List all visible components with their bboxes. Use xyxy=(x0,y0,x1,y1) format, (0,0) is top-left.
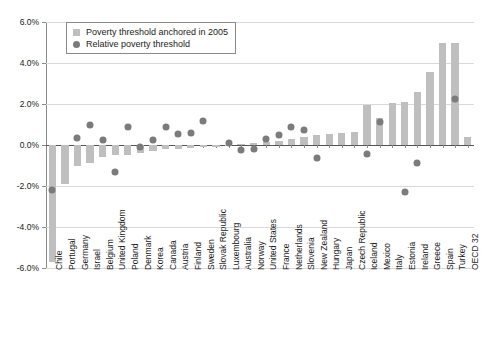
x-axis-tick xyxy=(405,145,406,148)
x-axis-tick-label: Netherlands xyxy=(295,224,304,270)
x-axis-tick-label: Denmark xyxy=(144,236,153,270)
x-axis-tick-label: New Zealand xyxy=(320,220,329,270)
data-point-marker xyxy=(263,135,270,142)
data-point-marker xyxy=(175,130,182,137)
bar xyxy=(175,145,182,149)
bar xyxy=(149,145,156,151)
bar xyxy=(401,102,408,145)
legend-item-anchored: Poverty threshold anchored in 2005 xyxy=(73,27,228,37)
bar xyxy=(439,43,446,146)
bar xyxy=(426,72,433,145)
x-axis-tick xyxy=(417,145,418,148)
bar xyxy=(263,142,270,145)
bar xyxy=(338,133,345,145)
x-axis-tick xyxy=(380,145,381,148)
x-axis-tick-label: Mexico xyxy=(383,243,392,270)
x-axis-tick-label: United States xyxy=(269,219,278,270)
series-layer xyxy=(46,22,474,268)
data-point-marker xyxy=(288,123,295,130)
y-axis-tick xyxy=(42,268,46,269)
bar xyxy=(326,134,333,145)
x-axis-tick-label: Slovak Republic xyxy=(219,209,228,270)
y-axis-tick-label: 6.0% xyxy=(20,18,39,27)
y-axis-tick-label: -6.0% xyxy=(17,264,39,273)
x-axis-tick-label: Slovenia xyxy=(307,237,316,270)
bar xyxy=(200,145,207,147)
x-axis-tick-label: Greece xyxy=(433,242,442,270)
bar xyxy=(300,137,307,145)
x-axis-tick-label: Germany xyxy=(81,235,90,270)
data-point-marker xyxy=(301,126,308,133)
data-point-marker xyxy=(112,168,119,175)
x-axis-tick-label: Israel xyxy=(93,249,102,270)
x-axis-tick-label: Belgium xyxy=(106,239,115,270)
dot-swatch-icon xyxy=(73,41,80,48)
bar xyxy=(414,92,421,145)
data-point-marker xyxy=(187,129,194,136)
x-axis-tick-label: Portugal xyxy=(68,238,77,270)
y-axis-tick-label: 2.0% xyxy=(20,100,39,109)
bar xyxy=(99,145,106,157)
y-axis-tick-label: 4.0% xyxy=(20,59,39,68)
x-axis-tick-label: Luxembourg xyxy=(232,223,241,270)
x-axis-labels: ChilePortugalGermanyIsraelBelgiumUnited … xyxy=(46,270,474,354)
x-axis-tick xyxy=(342,145,343,148)
x-axis-tick xyxy=(304,145,305,148)
x-axis-tick-label: Hungary xyxy=(332,238,341,270)
bar xyxy=(74,145,81,166)
x-axis-tick-label: Spain xyxy=(446,248,455,270)
poverty-threshold-chart: 6.0%4.0%2.0%0.0%-2.0%-4.0%-6.0% ChilePor… xyxy=(0,0,483,354)
x-axis-tick-label: Czech Republic xyxy=(358,210,367,270)
bar-swatch-icon xyxy=(73,29,80,36)
legend-label-relative: Relative poverty threshold xyxy=(86,39,190,49)
x-axis-tick xyxy=(279,145,280,148)
data-point-marker xyxy=(87,121,94,128)
x-axis-tick-label: Italy xyxy=(395,254,404,270)
data-point-marker xyxy=(364,151,371,158)
data-point-marker xyxy=(401,189,408,196)
x-axis-tick-label: Korea xyxy=(156,247,165,270)
data-point-marker xyxy=(162,123,169,130)
bar xyxy=(162,145,169,149)
bar xyxy=(275,141,282,145)
x-axis-tick-label: Austria xyxy=(181,244,190,270)
bar xyxy=(61,145,68,184)
bar xyxy=(351,132,358,145)
x-axis-tick-label: France xyxy=(282,244,291,270)
x-axis-tick-label: Ireland xyxy=(421,244,430,270)
x-axis-tick-label: Poland xyxy=(131,244,140,270)
data-point-marker xyxy=(99,136,106,143)
bar xyxy=(389,103,396,145)
data-point-marker xyxy=(376,119,383,126)
data-point-marker xyxy=(238,147,245,154)
x-axis-tick-label: Japan xyxy=(345,247,354,270)
bar xyxy=(363,105,370,145)
x-axis-tick xyxy=(430,145,431,148)
x-axis-tick-label: Sweden xyxy=(207,239,216,270)
y-axis-tick-label: -4.0% xyxy=(17,223,39,232)
x-axis-tick-label: Finland xyxy=(194,242,203,270)
data-point-marker xyxy=(414,160,421,167)
data-point-marker xyxy=(250,146,257,153)
x-axis-tick xyxy=(367,145,368,148)
data-point-marker xyxy=(225,139,232,146)
data-point-marker xyxy=(124,123,131,130)
data-point-marker xyxy=(313,155,320,162)
x-axis-tick-label: Australia xyxy=(244,237,253,270)
x-axis-tick xyxy=(329,145,330,148)
data-point-marker xyxy=(49,187,56,194)
x-axis-tick-label: Chile xyxy=(55,251,64,270)
bar xyxy=(124,145,131,155)
x-axis-tick-label: Norway xyxy=(257,241,266,270)
x-axis-tick-label: Canada xyxy=(169,240,178,270)
x-axis-tick xyxy=(291,145,292,148)
x-axis-tick xyxy=(468,145,469,148)
x-axis-tick-label: Turkey xyxy=(458,244,467,270)
bar xyxy=(451,43,458,146)
data-point-marker xyxy=(452,95,459,102)
legend-label-anchored: Poverty threshold anchored in 2005 xyxy=(86,27,228,37)
bar xyxy=(49,145,56,262)
x-axis-tick-label: Estonia xyxy=(408,242,417,270)
bar xyxy=(86,145,93,163)
data-point-marker xyxy=(150,136,157,143)
